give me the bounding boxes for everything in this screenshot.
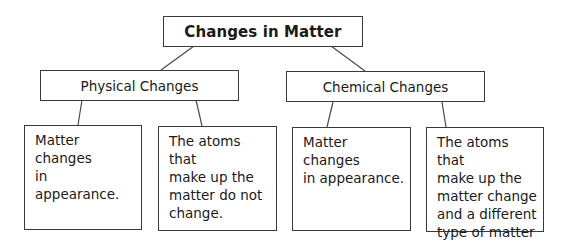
connector-title-physical — [161, 46, 194, 70]
connector-physical-leaf2 — [196, 100, 202, 126]
leaf-chemical-atoms: The atoms that make up the matter change… — [426, 127, 544, 232]
chemical-changes-label: Chemical Changes — [323, 79, 449, 95]
leaf-physical-appearance: Matter changes in appearance. — [24, 125, 142, 230]
connector-title-chemical — [331, 46, 365, 71]
leaf-physical-atoms: The atoms that make up the matter do not… — [158, 126, 277, 231]
leaf-chemical-appearance: Matter changes in appearance. — [292, 127, 411, 231]
connector-chemical-leaf2 — [442, 102, 446, 127]
node-physical-changes: Physical Changes — [40, 70, 239, 101]
physical-changes-label: Physical Changes — [81, 78, 199, 94]
node-chemical-changes: Chemical Changes — [286, 71, 485, 102]
root-node-title: Changes in Matter — [163, 16, 363, 47]
connector-chemical-leaf1 — [327, 102, 333, 127]
title-text: Changes in Matter — [184, 23, 341, 41]
connector-physical-leaf1 — [78, 100, 82, 125]
